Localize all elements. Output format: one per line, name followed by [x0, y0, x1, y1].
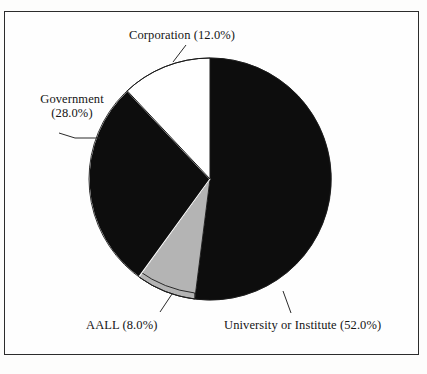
chart-page: Corporation (12.0%) Government (28.0%) A…	[0, 0, 427, 374]
pie-slice-university[interactable]	[195, 58, 332, 300]
pie-label-government-name: Government	[40, 92, 103, 106]
pie-label-aall: AALL (8.0%)	[86, 318, 157, 332]
leader-line-aall	[160, 294, 172, 312]
leader-line-university	[283, 291, 291, 313]
pie-label-corporation: Corporation (12.0%)	[129, 28, 235, 42]
pie-label-corporation-text: Corporation (12.0%)	[129, 28, 235, 42]
pie-label-government: Government (28.0%)	[24, 92, 120, 120]
pie-label-government-value: (28.0%)	[51, 106, 92, 120]
leader-line-government	[59, 133, 100, 138]
leader-line-corporation	[173, 45, 186, 62]
pie-label-aall-text: AALL (8.0%)	[86, 318, 157, 332]
pie-label-university-text: University or Institute (52.0%)	[224, 318, 381, 332]
pie-label-university: University or Institute (52.0%)	[224, 318, 381, 332]
